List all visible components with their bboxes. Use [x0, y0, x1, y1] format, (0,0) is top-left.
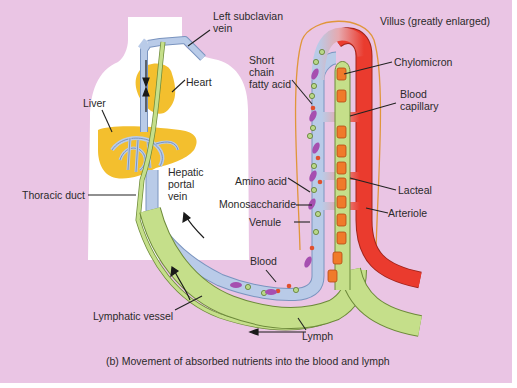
label-blood: Blood — [250, 255, 277, 267]
label-short-chain-fatty-acid-line2: chain — [249, 66, 274, 78]
label-heart: Heart — [186, 76, 212, 88]
label-venule: Venule — [249, 216, 281, 228]
label-thoracic-duct: Thoracic duct — [22, 189, 85, 201]
label-hepatic-portal-vein: Hepatic — [168, 166, 204, 178]
label-short-chain-fatty-acid-line3: fatty acid — [249, 78, 291, 90]
label-hepatic-portal-vein-line3: vein — [168, 190, 187, 202]
label-lacteal: Lacteal — [398, 184, 432, 196]
label-arteriole: Arteriole — [388, 207, 427, 219]
label-short-chain-fatty-acid: Short — [249, 54, 274, 66]
label-villus: Villus (greatly enlarged) — [380, 15, 490, 27]
label-liver: Liver — [83, 97, 106, 109]
label-lymph: Lymph — [302, 330, 333, 342]
label-blood-capillary-line2: capillary — [400, 100, 439, 112]
label-lymphatic-vessel: Lymphatic vessel — [93, 310, 173, 322]
label-amino-acid: Amino acid — [235, 175, 287, 187]
label-chylomicron: Chylomicron — [394, 56, 453, 68]
figure: Left subclavian vein Heart Liver Hepatic… — [0, 0, 517, 388]
label-left-subclavian-vein: Left subclavian — [213, 10, 283, 22]
label-hepatic-portal-vein-line2: portal — [168, 178, 194, 190]
label-blood-capillary: Blood — [400, 88, 427, 100]
label-monosaccharide: Monosaccharide — [219, 198, 296, 210]
label-left-subclavian-vein-line2: vein — [213, 22, 232, 34]
nutrient-absorption-diagram: Left subclavian vein Heart Liver Hepatic… — [0, 0, 517, 388]
figure-caption: (b) Movement of absorbed nutrients into … — [106, 355, 390, 367]
